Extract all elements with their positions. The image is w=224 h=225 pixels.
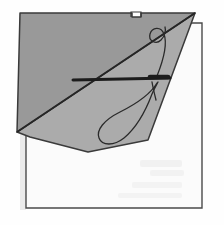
scan-smudge-2	[150, 170, 184, 176]
figure-container: Sewing diagram: needle and looped thread…	[0, 0, 224, 225]
scan-smudge-4	[118, 193, 182, 198]
scan-smudge-1	[140, 160, 182, 167]
scan-smudge-3	[132, 182, 182, 188]
sewing-diagram-svg	[0, 0, 224, 225]
